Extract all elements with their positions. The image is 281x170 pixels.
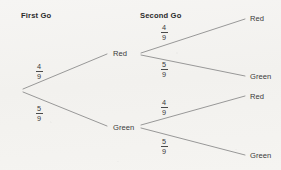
probability-tree-diagram: First Go Second Go Red Green Red Green R… [0, 0, 281, 170]
numerator: 4 [157, 24, 171, 32]
header-second-go: Second Go [140, 11, 181, 20]
denominator: 9 [32, 73, 46, 81]
header-first-go: First Go [21, 11, 51, 20]
denominator: 9 [157, 34, 171, 42]
numerator: 4 [32, 63, 46, 71]
probability-red-green: 5 9 [157, 61, 171, 78]
tree-branch-lines [0, 0, 281, 170]
numerator: 5 [157, 138, 171, 146]
node-green-red: Red [250, 92, 264, 101]
probability-root-green: 5 9 [32, 105, 46, 122]
node-red-red: Red [250, 14, 264, 23]
node-first-green: Green [113, 123, 134, 132]
node-red-green: Green [250, 72, 271, 81]
denominator: 9 [157, 148, 171, 156]
probability-green-red: 4 9 [157, 99, 171, 116]
node-first-red: Red [113, 49, 127, 58]
numerator: 5 [157, 61, 171, 69]
denominator: 9 [157, 109, 171, 117]
denominator: 9 [32, 115, 46, 123]
probability-root-red: 4 9 [32, 63, 46, 80]
denominator: 9 [157, 71, 171, 79]
numerator: 5 [32, 105, 46, 113]
node-green-green: Green [250, 151, 271, 160]
numerator: 4 [157, 99, 171, 107]
probability-green-green: 5 9 [157, 138, 171, 155]
probability-red-red: 4 9 [157, 24, 171, 41]
